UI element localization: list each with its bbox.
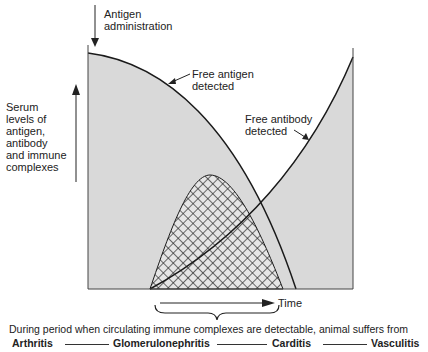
antigen-administration-label: Antigen administration: [104, 8, 172, 32]
arrow-up-icon: [72, 84, 80, 95]
disease-carditis: Carditis: [272, 337, 311, 349]
label-line: Antigen: [104, 8, 172, 20]
label-line: complexes: [6, 161, 67, 173]
x-axis-label: Time: [278, 297, 302, 309]
divider: [323, 344, 367, 345]
label-line: levels of: [6, 113, 67, 125]
free-antibody-label: Free antibody detected: [245, 113, 312, 137]
y-axis-label: Serum levels of antigen, antibody and im…: [6, 101, 67, 173]
arrow-pointer-icon: [168, 78, 176, 84]
label-line: antigen,: [6, 125, 67, 137]
disease-vasculitis: Vasculitis: [371, 337, 419, 349]
caption: During period when circulating immune co…: [9, 323, 408, 335]
disease-glomerulonephritis: Glomerulonephritis: [113, 337, 210, 349]
immune-complex-diagram: [0, 0, 428, 352]
label-line: Free antibody: [245, 113, 312, 125]
label-line: detected: [192, 80, 254, 92]
label-line: detected: [245, 125, 312, 137]
label-line: Serum: [6, 101, 67, 113]
arrow-down-icon: [91, 38, 99, 47]
label-line: Free antigen: [192, 68, 254, 80]
divider: [65, 344, 109, 345]
disease-arthritis: Arthritis: [12, 337, 53, 349]
divider: [217, 344, 267, 345]
time-brace: [155, 305, 279, 320]
label-line: antibody: [6, 137, 67, 149]
free-antigen-label: Free antigen detected: [192, 68, 254, 92]
arrow-right-icon: [262, 299, 275, 307]
label-line: and immune: [6, 149, 67, 161]
label-line: administration: [104, 20, 172, 32]
